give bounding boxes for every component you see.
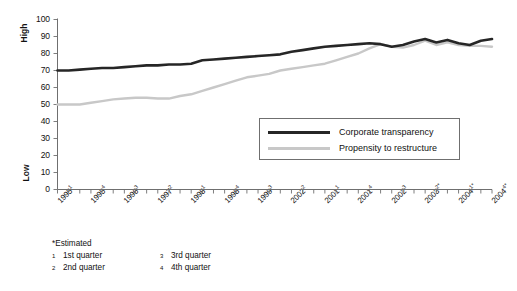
legend-label-propensity-to-restructure: Propensity to restructure — [339, 144, 437, 153]
footnote-estimated: *Estimated — [52, 238, 268, 249]
footnote-marker-3: 3 — [160, 250, 171, 262]
footnote-row: 1 1st quarter 3 3rd quarter — [52, 250, 268, 262]
legend: Corporate transparency Propensity to res… — [259, 118, 460, 160]
legend-item-propensity-to-restructure: Propensity to restructure — [260, 140, 459, 156]
footnote-text-4: 4th quarter — [171, 262, 211, 274]
legend-swatch-propensity-to-restructure — [268, 147, 330, 150]
footnote-text-1: 1st quarter — [63, 250, 102, 262]
footnote-marker-1: 1 — [52, 250, 63, 262]
footnote-text-3: 3rd quarter — [171, 250, 211, 262]
footnote-row: 2 2nd quarter 4 4th quarter — [52, 262, 268, 274]
legend-label-corporate-transparency: Corporate transparency — [339, 128, 434, 137]
footnote-entry-1: 1 1st quarter — [52, 250, 160, 262]
legend-swatch-corporate-transparency — [268, 131, 330, 134]
chart-container: High Low 1009080706050403020100 19951199… — [0, 0, 517, 291]
footnote-marker-2: 2 — [52, 262, 63, 274]
footnotes: *Estimated 1 1st quarter 3 3rd quarter 2… — [52, 238, 268, 274]
footnote-entry-4: 4 4th quarter — [160, 262, 268, 274]
footnote-entry-3: 3 3rd quarter — [160, 250, 268, 262]
footnote-entry-2: 2 2nd quarter — [52, 262, 160, 274]
footnote-text-2: 2nd quarter — [63, 262, 105, 274]
footnote-marker-4: 4 — [160, 262, 171, 274]
legend-item-corporate-transparency: Corporate transparency — [260, 124, 459, 140]
